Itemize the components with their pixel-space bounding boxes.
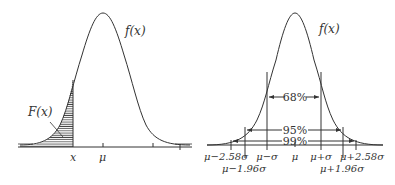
interval-68: 68% [269,91,319,104]
svg-text:99%: 99% [283,135,307,148]
right-panel: 68% 95% 99% f(x) μ−2.58σ μ−σ μ μ+σ μ+2.5… [204,13,385,174]
svg-text:μ−1.96σ: μ−1.96σ [222,163,267,174]
svg-text:μ: μ [292,151,299,162]
svg-text:μ+2.58σ: μ+2.58σ [340,151,385,162]
curve-label-right: f(x) [318,22,340,36]
svg-text:μ−2.58σ: μ−2.58σ [204,151,249,162]
axis-label-mu: μ [99,151,106,164]
normal-distribution-diagram: f(x) F(x) x μ 68% 95% [0,0,395,185]
svg-text:μ+σ: μ+σ [310,151,333,162]
axis-label-x: x [70,151,77,164]
left-panel: f(x) F(x) x μ [18,13,192,164]
pdf-curve-left [20,13,190,145]
curve-label-left: f(x) [124,24,146,38]
svg-text:μ+1.96σ: μ+1.96σ [320,163,365,174]
interval-99: 99% [233,135,354,148]
area-label: F(x) [27,105,53,119]
svg-text:μ−σ: μ−σ [256,151,279,162]
svg-text:68%: 68% [283,91,307,104]
